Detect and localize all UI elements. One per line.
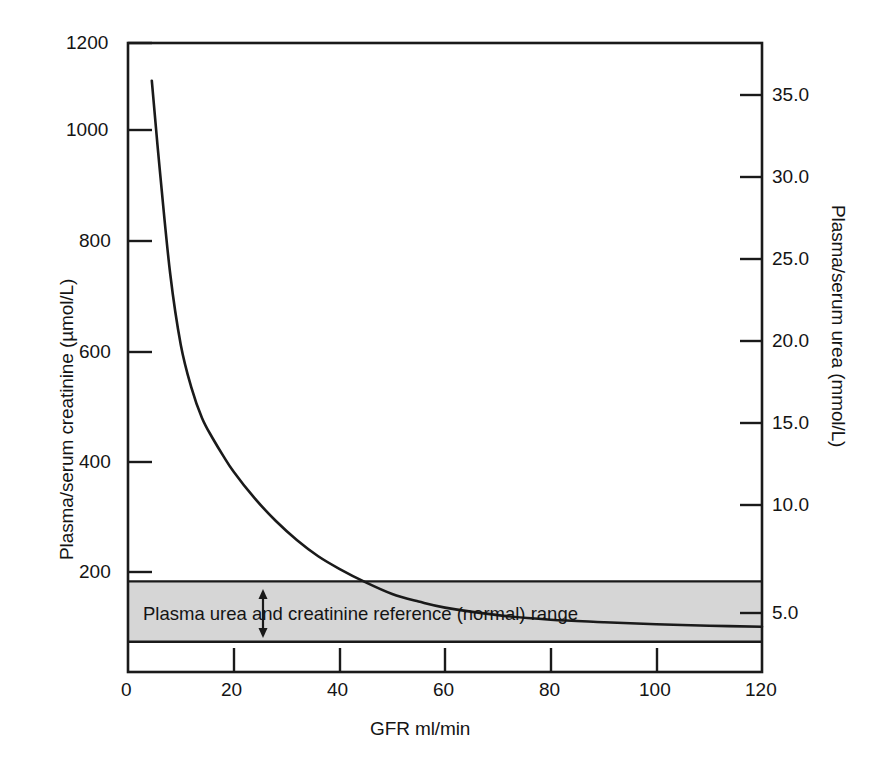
x-tick-label-20: 20 — [221, 679, 242, 701]
y-left-tick-label-800: 800 — [79, 230, 111, 252]
y-right-tick-label-15: 15.0 — [772, 412, 809, 434]
x-tick-label-0: 0 — [121, 679, 132, 701]
y-right-tick-label-5: 5.0 — [772, 602, 798, 624]
chart-figure: 1200 1000 800 600 400 200 35.0 30.0 25.0… — [0, 0, 880, 773]
y-axis-right-title: Plasma/serum urea (mmol/L) — [827, 205, 849, 447]
x-axis-title: GFR ml/min — [370, 718, 470, 740]
y-right-ticks — [740, 95, 762, 613]
x-ticks — [234, 648, 657, 672]
y-left-ticks — [128, 43, 152, 572]
y-left-tick-label-1200: 1200 — [66, 32, 108, 54]
y-left-tick-label-400: 400 — [79, 451, 111, 473]
x-tick-label-120: 120 — [745, 679, 777, 701]
y-left-tick-label-1000: 1000 — [66, 119, 108, 141]
y-axis-left-title: Plasma/serum creatinine (µmol/L) — [56, 279, 78, 560]
y-right-tick-label-20: 20.0 — [772, 330, 809, 352]
y-right-tick-label-30: 30.0 — [772, 166, 809, 188]
y-right-tick-label-25: 25.0 — [772, 248, 809, 270]
plot-frame — [128, 43, 762, 672]
x-tick-label-60: 60 — [433, 679, 454, 701]
y-left-tick-label-200: 200 — [79, 561, 111, 583]
gfr-creatinine-urea-chart — [0, 0, 880, 773]
x-tick-label-80: 80 — [539, 679, 560, 701]
y-right-tick-label-35: 35.0 — [772, 84, 809, 106]
reference-range-label: Plasma urea and creatinine reference (no… — [143, 603, 578, 625]
x-tick-label-40: 40 — [327, 679, 348, 701]
x-tick-label-100: 100 — [639, 679, 671, 701]
creatinine-curve — [152, 81, 762, 627]
y-right-tick-label-10: 10.0 — [772, 494, 809, 516]
y-left-tick-label-600: 600 — [79, 341, 111, 363]
